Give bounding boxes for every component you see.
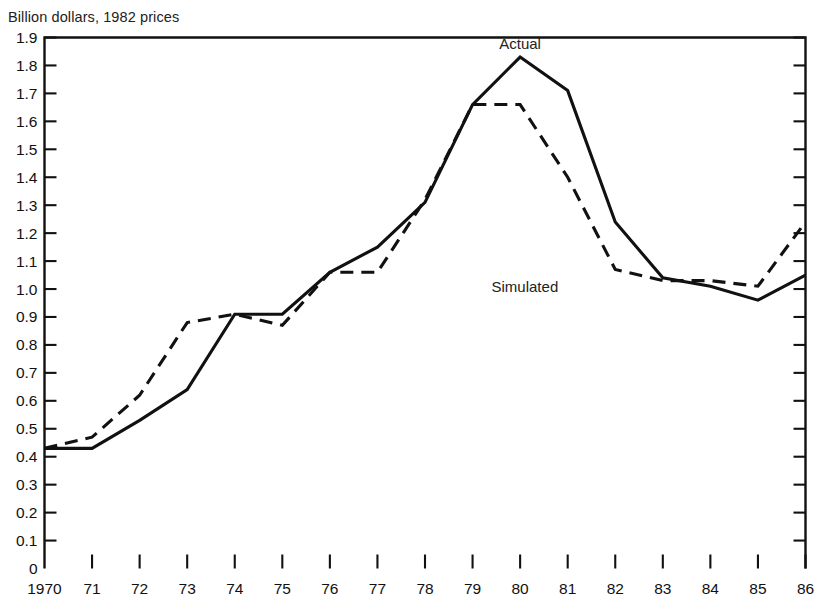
x-tick-label: 75: [274, 580, 291, 597]
series-label-actual: Actual: [499, 35, 541, 52]
series-line-simulated: [45, 105, 806, 449]
y-axis-tick-marks: [45, 38, 806, 541]
chart-title: Billion dollars, 1982 prices: [8, 9, 179, 25]
y-tick-label: 0.3: [16, 476, 38, 493]
y-tick-label: 1.7: [16, 85, 38, 102]
x-axis-tick-marks: [92, 555, 805, 569]
y-axis-tick-labels: 00.10.20.30.40.50.60.70.80.91.01.11.21.3…: [16, 29, 38, 577]
x-tick-label: 81: [559, 580, 576, 597]
x-tick-label: 72: [131, 580, 148, 597]
x-tick-label: 78: [416, 580, 433, 597]
x-tick-label: 76: [321, 580, 338, 597]
x-tick-label: 85: [749, 580, 766, 597]
y-tick-label: 0.9: [16, 308, 38, 325]
y-tick-label: 1.1: [16, 253, 38, 270]
y-tick-label: 0.8: [16, 336, 38, 353]
x-tick-label: 84: [702, 580, 720, 597]
y-tick-label: 0.6: [16, 392, 38, 409]
y-tick-label: 1.5: [16, 141, 38, 158]
y-tick-label: 1.3: [16, 197, 38, 214]
x-tick-label: 1970: [27, 580, 62, 597]
x-tick-label: 82: [607, 580, 624, 597]
x-tick-label: 73: [179, 580, 196, 597]
plot-frame: [45, 38, 806, 569]
series-line-actual: [45, 57, 806, 448]
y-tick-label: 0.4: [16, 448, 38, 465]
x-tick-label: 86: [797, 580, 814, 597]
y-tick-label: 1.2: [16, 225, 38, 242]
y-tick-label: 0.2: [16, 504, 38, 521]
y-tick-label: 1.8: [16, 57, 38, 74]
y-tick-label: 1.0: [16, 281, 38, 298]
x-tick-label: 83: [654, 580, 671, 597]
y-tick-label: 1.4: [16, 169, 38, 186]
series-label-simulated: Simulated: [492, 278, 559, 295]
line-chart: Billion dollars, 1982 prices 00.10.20.30…: [0, 0, 819, 614]
y-tick-label: 0.5: [16, 420, 38, 437]
x-tick-label: 80: [512, 580, 530, 597]
x-tick-label: 71: [83, 580, 100, 597]
x-axis-tick-labels: 197071727374757677787980818283848586: [27, 580, 814, 597]
x-tick-label: 79: [464, 580, 481, 597]
y-tick-label: 1.6: [16, 113, 38, 130]
x-tick-label: 77: [369, 580, 386, 597]
y-tick-label: 0.1: [16, 532, 38, 549]
y-tick-label: 0: [29, 560, 38, 577]
y-tick-label: 1.9: [16, 29, 38, 46]
x-tick-label: 74: [226, 580, 244, 597]
y-tick-label: 0.7: [16, 364, 38, 381]
